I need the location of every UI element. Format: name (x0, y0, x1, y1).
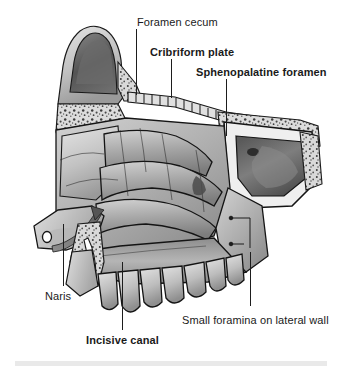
leader-foramen-cecum (136, 29, 137, 95)
anatomical-figure: Foramen cecum Cribriform plate Sphenopal… (0, 0, 342, 370)
label-cribriform-plate: Cribriform plate (150, 46, 234, 58)
leader-small-foramina (250, 252, 251, 306)
label-small-foramina-on-lateral-wall: Small foramina on lateral wall (182, 314, 329, 326)
footer-band (15, 361, 327, 366)
naris-opening (43, 232, 52, 243)
label-sphenopalatine-foramen: Sphenopalatine foramen (196, 66, 327, 78)
leader-incisive-canal (122, 262, 123, 330)
leader-cribriform-plate (171, 59, 172, 98)
leader-naris (63, 224, 64, 286)
leader-sphenopalatine-foramen (226, 79, 227, 136)
label-foramen-cecum: Foramen cecum (137, 16, 218, 28)
label-incisive-canal: Incisive canal (86, 334, 159, 346)
label-naris: Naris (45, 290, 71, 302)
